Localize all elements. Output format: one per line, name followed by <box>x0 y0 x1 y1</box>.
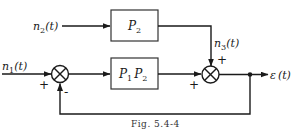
junction2-top-plus: + <box>217 53 227 67</box>
block-p2: P2 <box>111 10 158 41</box>
junction1-minus: - <box>64 85 68 99</box>
block-diagram: n2(t) P2 n3(t) + n1(t) + P1P2 + <box>0 0 305 130</box>
n2-label: n2(t) <box>33 20 58 35</box>
junction1-plus: + <box>39 78 49 92</box>
output: ε(t) <box>219 69 291 82</box>
summing-junction-1 <box>52 66 69 83</box>
n2-input: n2(t) <box>33 20 110 35</box>
n1-input: n1(t) + <box>2 60 51 92</box>
n1-label: n1(t) <box>2 60 27 75</box>
n3-path: n3(t) + <box>158 26 239 67</box>
n3-label: n3(t) <box>214 37 239 52</box>
figure-caption: Fig. 5.4-4 <box>131 119 180 129</box>
output-label: ε(t) <box>270 69 291 82</box>
n3-arrow <box>158 26 211 66</box>
summing-junction-2 <box>202 66 219 83</box>
block-p1p2: P1P2 <box>111 58 158 89</box>
junction2-left-plus: + <box>189 78 199 92</box>
